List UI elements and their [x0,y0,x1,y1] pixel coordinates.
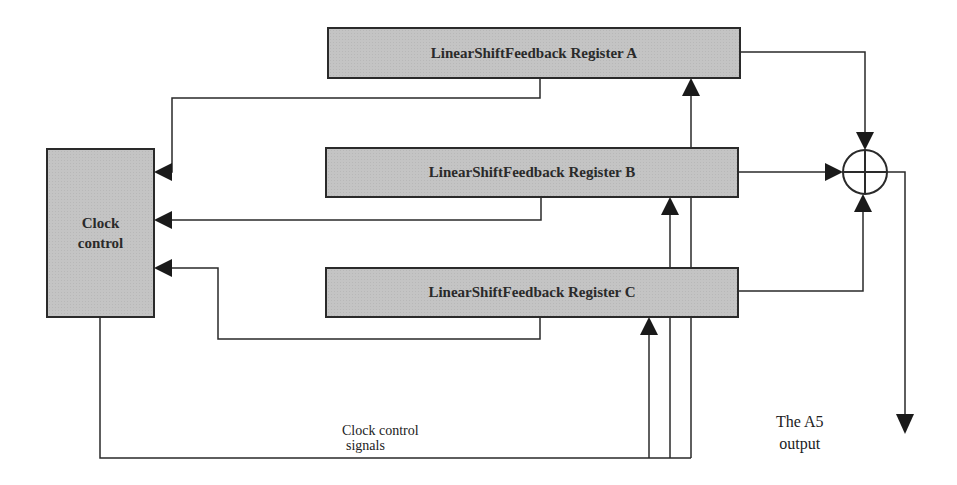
feedback-b-line [170,197,541,220]
output-label-line1: The A5 [776,411,824,433]
signals-label-line1: Clock control [342,423,419,438]
register-c-box: LinearShiftFeedback Register C [325,267,739,318]
final-output-line [887,172,905,420]
output-c-line [738,212,863,291]
arrow-down-icon [856,132,874,150]
a5-output-label: The A5 output [776,411,824,455]
arrow-up-icon [682,78,700,96]
arrow-left-icon [154,211,172,229]
arrow-right-icon [825,163,843,181]
clock-signals-label: Clock control signals [342,423,419,453]
arrow-up-icon [640,317,658,335]
arrow-left-icon [154,259,172,277]
register-b-box: LinearShiftFeedback Register B [325,147,739,198]
arrow-up-icon [854,194,872,212]
arrow-down-icon [896,414,914,434]
signals-label-line2: signals [342,438,419,453]
register-c-label: LinearShiftFeedback Register C [428,284,635,301]
register-b-label: LinearShiftFeedback Register B [429,164,635,181]
register-a-label: LinearShiftFeedback Register A [431,45,637,62]
output-label-line2: output [776,433,824,455]
arrow-left-icon [154,163,172,181]
clock-control-box: Clock control [46,148,155,318]
register-a-box: LinearShiftFeedback Register A [327,27,741,79]
arrow-up-icon [661,197,679,215]
clock-control-label-line2: control [78,233,124,253]
output-a-line [740,52,865,134]
clock-control-label-line1: Clock [82,213,120,233]
